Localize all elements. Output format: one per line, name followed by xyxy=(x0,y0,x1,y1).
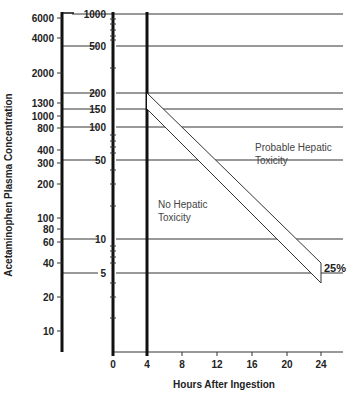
treatment-band xyxy=(147,93,321,283)
inner-tick-label: 200 xyxy=(89,88,106,99)
inner-tick-label: 100 xyxy=(89,122,106,133)
inner-tick-label: 10 xyxy=(95,234,107,245)
inner-tick-label: 5 xyxy=(100,268,106,279)
x-tick-label: 20 xyxy=(281,359,293,370)
x-tick-labels: 04812162024 xyxy=(110,359,327,370)
inner-tick-labels: 100050020015010050105 xyxy=(84,9,107,279)
outer-tick-label: 10 xyxy=(43,326,55,337)
gridlines xyxy=(62,14,343,352)
y-axis-title: Acetaminophen Plasma Concentration xyxy=(3,93,14,276)
nomogram-chart: 6000400020001300100080040030020010080604… xyxy=(0,0,354,394)
x-axis-title: Hours After Ingestion xyxy=(173,379,275,390)
probable-toxicity-label-2: Toxicity xyxy=(255,155,288,166)
x-tick-label: 24 xyxy=(315,359,327,370)
no-toxicity-label-2: Toxicity xyxy=(158,212,191,223)
outer-tick-label: 60 xyxy=(43,237,55,248)
x-tick-label: 16 xyxy=(246,359,258,370)
x-tick-label: 12 xyxy=(211,359,223,370)
outer-tick-label: 400 xyxy=(37,145,54,156)
inner-tick-label: 50 xyxy=(95,155,107,166)
inner-tick-label: 150 xyxy=(89,104,106,115)
outer-tick-label: 80 xyxy=(43,224,55,235)
band-percent-label: 25% xyxy=(324,262,346,274)
x-tick-label: 8 xyxy=(179,359,185,370)
x-tick-label: 4 xyxy=(144,359,150,370)
outer-tick-label: 6000 xyxy=(32,13,55,24)
outer-tick-label: 200 xyxy=(37,179,54,190)
outer-tick-label: 20 xyxy=(43,292,55,303)
outer-tick-label: 2000 xyxy=(32,68,55,79)
outer-tick-label: 4000 xyxy=(32,33,55,44)
outer-tick-label: 800 xyxy=(37,123,54,134)
outer-tick-labels: 6000400020001300100080040030020010080604… xyxy=(32,13,55,337)
outer-tick-label: 300 xyxy=(37,158,54,169)
outer-tick-label: 1000 xyxy=(32,111,55,122)
probable-toxicity-label-1: Probable Hepatic xyxy=(255,142,332,153)
inner-tick-label: 1000 xyxy=(84,9,107,20)
x-tick-label: 0 xyxy=(110,359,116,370)
outer-tick-label: 1300 xyxy=(32,98,55,109)
outer-tick-label: 40 xyxy=(43,258,55,269)
inner-tick-label: 500 xyxy=(89,41,106,52)
outer-tick-label: 100 xyxy=(37,213,54,224)
no-toxicity-label-1: No Hepatic xyxy=(158,199,207,210)
